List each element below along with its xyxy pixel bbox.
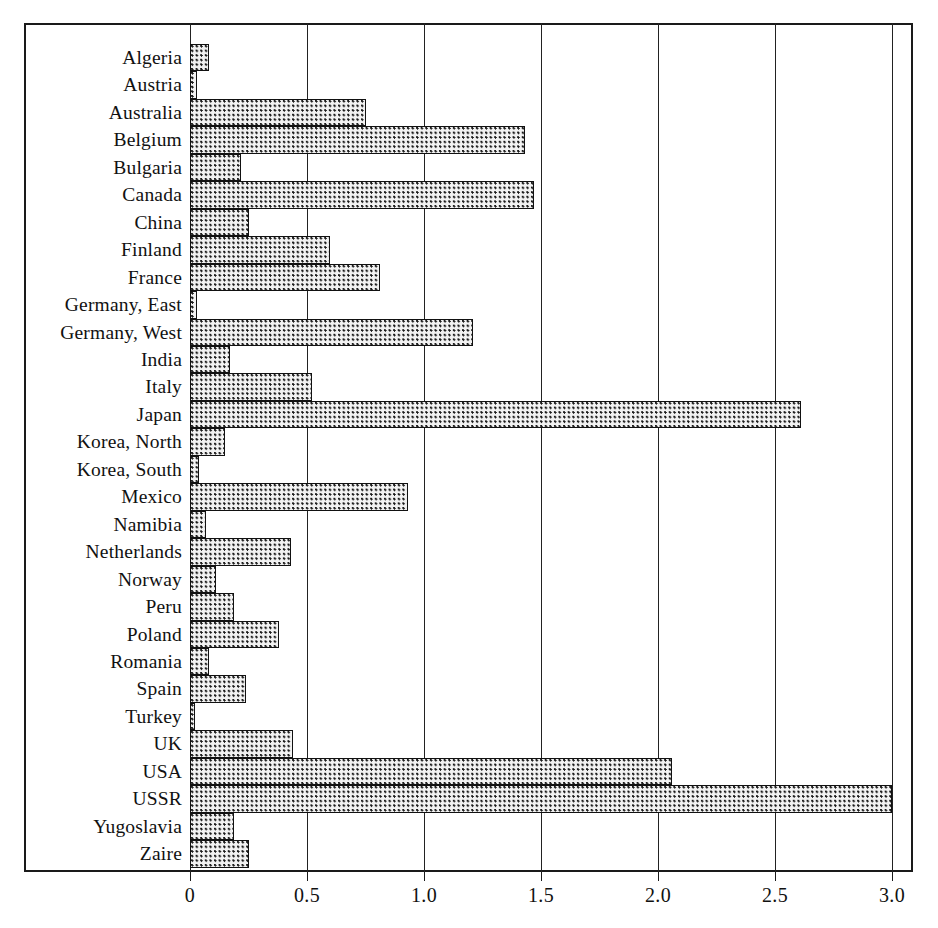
chart-canvas: AlgeriaAustriaAustraliaBelgiumBulgariaCa…	[0, 0, 938, 928]
category-label: Bulgaria	[113, 154, 182, 181]
x-tick-label: 0	[155, 884, 225, 907]
category-label: Korea, North	[77, 428, 182, 455]
category-label: Belgium	[113, 126, 182, 153]
bar-row: Korea, North	[24, 428, 913, 455]
category-label: Namibia	[113, 511, 182, 538]
category-label: Romania	[110, 648, 182, 675]
bar	[190, 566, 216, 593]
category-label: Norway	[118, 566, 182, 593]
x-tick-label: 1.5	[506, 884, 576, 907]
bar-row: Turkey	[24, 703, 913, 730]
bar-row: Belgium	[24, 126, 913, 153]
x-tick-mark	[775, 872, 776, 881]
bar-row: Canada	[24, 181, 913, 208]
bar	[190, 99, 366, 126]
category-label: China	[134, 209, 182, 236]
bar-row: Germany, East	[24, 291, 913, 318]
category-label: Peru	[145, 593, 182, 620]
category-label: Turkey	[125, 703, 182, 730]
bar-row: India	[24, 346, 913, 373]
bar	[190, 209, 249, 236]
category-label: Korea, South	[77, 456, 182, 483]
bar	[190, 483, 408, 510]
x-tick-mark	[307, 872, 308, 881]
bar-row: Netherlands	[24, 538, 913, 565]
bar	[190, 648, 209, 675]
bar-row: USA	[24, 758, 913, 785]
x-tick-label: 1.0	[389, 884, 459, 907]
x-tick-label: 2.0	[623, 884, 693, 907]
bar-row: Spain	[24, 675, 913, 702]
bar-row: Bulgaria	[24, 154, 913, 181]
bar-row: Germany, West	[24, 319, 913, 346]
bar	[190, 456, 199, 483]
x-tick-label: 3.0	[857, 884, 927, 907]
bar-row: Zaire	[24, 840, 913, 867]
bar-row: Algeria	[24, 44, 913, 71]
bar	[190, 319, 473, 346]
category-label: USSR	[132, 785, 182, 812]
bar	[190, 346, 230, 373]
bar	[190, 44, 209, 71]
bar-row: France	[24, 264, 913, 291]
category-label: Germany, West	[60, 319, 182, 346]
bar	[190, 593, 234, 620]
bar-row: Australia	[24, 99, 913, 126]
x-tick-mark	[424, 872, 425, 881]
x-tick-mark	[892, 872, 893, 881]
bar-row: Norway	[24, 566, 913, 593]
x-tick-mark	[658, 872, 659, 881]
bar-row: Namibia	[24, 511, 913, 538]
bar-row: USSR	[24, 785, 913, 812]
category-label: Finland	[121, 236, 182, 263]
category-label: Algeria	[122, 44, 182, 71]
bar	[190, 675, 246, 702]
bar-row: Japan	[24, 401, 913, 428]
category-label: Zaire	[140, 840, 182, 867]
x-tick-mark	[541, 872, 542, 881]
bar	[190, 785, 892, 812]
bar	[190, 154, 241, 181]
bar-row: Poland	[24, 621, 913, 648]
bar	[190, 730, 293, 757]
bar	[190, 373, 312, 400]
category-label: Mexico	[121, 483, 182, 510]
bar-row: Yugoslavia	[24, 813, 913, 840]
category-label: Spain	[137, 675, 182, 702]
x-tick-label: 2.5	[740, 884, 810, 907]
bar	[190, 71, 197, 98]
category-label: Yugoslavia	[93, 813, 182, 840]
bar	[190, 428, 225, 455]
category-label: France	[128, 264, 182, 291]
bar	[190, 264, 380, 291]
bar-row: Italy	[24, 373, 913, 400]
x-tick-label: 0.5	[272, 884, 342, 907]
category-label: Netherlands	[86, 538, 182, 565]
bar	[190, 621, 279, 648]
bar-row: Romania	[24, 648, 913, 675]
category-label: Japan	[137, 401, 182, 428]
category-label: UK	[153, 730, 182, 757]
bar	[190, 840, 249, 867]
bar	[190, 758, 672, 785]
bar-row: China	[24, 209, 913, 236]
category-label: USA	[142, 758, 182, 785]
bar	[190, 538, 291, 565]
bar	[190, 291, 197, 318]
bar-row: Mexico	[24, 483, 913, 510]
bar	[190, 813, 234, 840]
category-label: Canada	[122, 181, 182, 208]
bar-row: Korea, South	[24, 456, 913, 483]
category-label: India	[141, 346, 182, 373]
bar-row: UK	[24, 730, 913, 757]
category-label: Austria	[123, 71, 182, 98]
bar	[190, 236, 330, 263]
bar-row: Austria	[24, 71, 913, 98]
bar-row: Peru	[24, 593, 913, 620]
bar-row: Finland	[24, 236, 913, 263]
bar	[190, 181, 534, 208]
category-label: Poland	[127, 621, 182, 648]
category-label: Germany, East	[65, 291, 182, 318]
x-tick-mark	[190, 872, 191, 881]
bar	[190, 401, 801, 428]
